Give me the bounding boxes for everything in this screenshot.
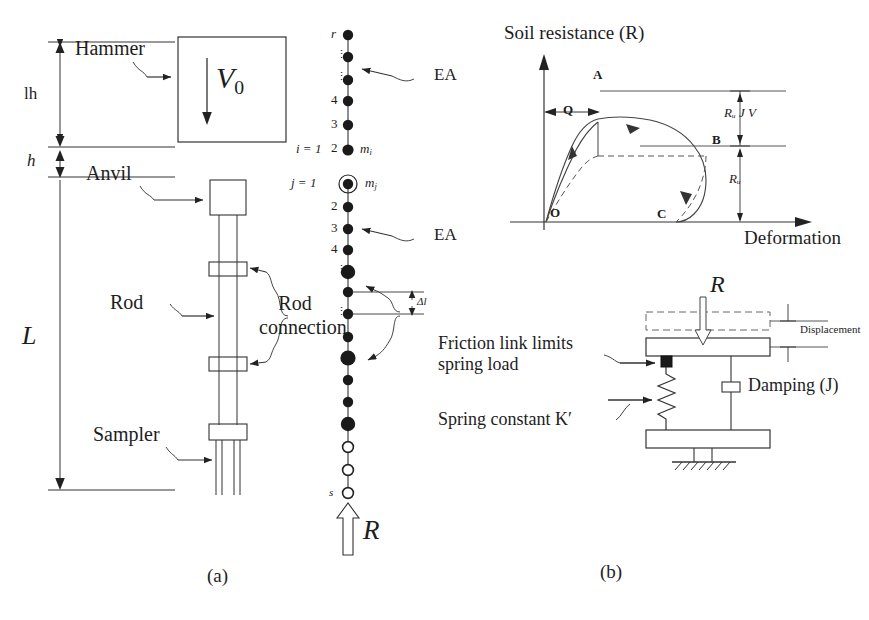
label-anvil: Anvil <box>86 163 132 184</box>
label-spring-constant: Spring constant K′ <box>438 410 572 429</box>
node-label-3: 3 <box>331 117 338 131</box>
figure-root: lh h L Hammer Anvil Rod Rod connection S… <box>0 0 869 620</box>
chart-y-axis-label: Soil resistance (R) <box>504 23 644 43</box>
node-label-j-equals-1: j = 1 <box>291 176 316 190</box>
resistance-chart-axes <box>510 54 812 230</box>
reaction-label-R: R <box>363 516 380 544</box>
rod-node-dots-1: ⋮ <box>336 264 347 276</box>
ea-pointer-top <box>362 69 414 81</box>
rod-node-label-s: s <box>329 487 333 499</box>
hammer-pointer <box>133 62 171 77</box>
rod-node-label-2: 2 <box>331 199 338 213</box>
node-label-i-equals-1: i = 1 <box>296 142 321 156</box>
dim-label-h: h <box>27 152 36 170</box>
ea-pointer-bottom <box>362 229 414 241</box>
resistance-curve-dashed <box>546 122 706 222</box>
label-displacement: Displacement <box>800 324 860 336</box>
rod-node-dots-2: ⋮ <box>336 306 347 318</box>
stiffness-label-ea-bottom: EA <box>434 226 457 244</box>
mass-label-mi: mi <box>360 142 372 157</box>
stiffness-label-ea-top: EA <box>434 66 457 84</box>
rod-pointer <box>170 304 214 316</box>
spring-constant-pointer <box>608 400 652 420</box>
node-label-2: 2 <box>331 141 338 155</box>
anvil-pointer <box>140 186 203 200</box>
chart-quake-label: Q <box>563 103 573 117</box>
caption-b: (b) <box>600 562 622 582</box>
dim-label-L: L <box>22 322 36 349</box>
label-sampler: Sampler <box>93 424 160 445</box>
rod-node-label-4: 4 <box>331 242 338 256</box>
chart-ultimate-resistance-label: Rᵤ <box>729 172 741 186</box>
mass-column <box>339 30 424 499</box>
rod-node-label-3: 3 <box>331 221 338 235</box>
label-damping: Damping (J) <box>748 376 838 395</box>
caption-a: (a) <box>207 566 228 586</box>
chart-point-C: C <box>657 207 666 221</box>
label-hammer: Hammer <box>75 38 145 59</box>
chart-point-B: B <box>712 133 721 147</box>
element-length-label: Δl <box>417 296 427 308</box>
dim-label-lh: lh <box>24 85 37 103</box>
label-applied-resistance-R: R <box>710 272 725 297</box>
resistance-curve-solid <box>546 117 706 222</box>
chart-x-axis-label: Deformation <box>744 228 841 248</box>
label-friction-link: Friction link limits spring load <box>438 333 613 375</box>
chart-point-A: A <box>593 68 602 82</box>
node-label-r: r <box>331 27 336 41</box>
chart-point-O: O <box>550 206 560 220</box>
chart-damping-term-label: Rᵤ J V <box>724 106 756 120</box>
velocity-label: V0 <box>216 62 244 97</box>
velocity-symbol: V <box>216 61 234 94</box>
reaction-arrow <box>337 503 359 555</box>
label-rod-connection: Rod connection <box>259 292 331 339</box>
mass-label-mj: mj <box>365 176 377 191</box>
sampler-pointer <box>166 447 212 460</box>
node-label-4: 4 <box>331 93 338 107</box>
node-label-dots-1: ⋮ <box>336 49 347 61</box>
rod-assembly <box>209 180 247 495</box>
velocity-subscript: 0 <box>234 76 244 98</box>
node-label-dots-2: ⋮ <box>336 71 347 83</box>
label-rod: Rod <box>110 292 143 313</box>
